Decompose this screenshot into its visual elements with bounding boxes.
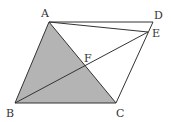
label-d: D: [154, 9, 163, 22]
label-a: A: [40, 7, 50, 20]
label-c: C: [116, 107, 124, 120]
shaded-triangle-abc: [15, 22, 116, 103]
segment-ae: [49, 22, 148, 32]
geometry-diagram: A D E F B C: [0, 0, 171, 122]
label-e: E: [152, 27, 160, 40]
label-b: B: [6, 107, 14, 120]
label-f: F: [84, 52, 92, 65]
